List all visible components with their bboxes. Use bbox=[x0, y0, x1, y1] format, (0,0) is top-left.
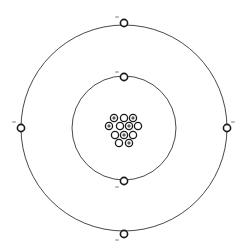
charge-signs bbox=[12, 17, 235, 240]
neutron bbox=[115, 139, 122, 146]
neutron bbox=[116, 122, 123, 129]
proton bbox=[125, 139, 132, 146]
electron-inner-shell-top bbox=[120, 73, 127, 80]
electrons bbox=[17, 19, 230, 237]
electron-shells bbox=[21, 25, 227, 231]
outer-shell bbox=[21, 25, 227, 231]
nucleus bbox=[105, 114, 141, 146]
neutron bbox=[111, 131, 118, 138]
proton bbox=[105, 122, 112, 129]
electron-inner-shell-bottom bbox=[120, 177, 127, 184]
electron-outer-shell-top bbox=[120, 19, 127, 26]
proton bbox=[120, 131, 127, 138]
electron-outer-shell-left bbox=[17, 124, 24, 131]
electron-outer-shell-bottom bbox=[120, 230, 127, 237]
electron-outer-shell-right bbox=[223, 124, 230, 131]
proton bbox=[129, 114, 136, 121]
atom-diagram bbox=[0, 0, 243, 250]
proton bbox=[110, 114, 117, 121]
neutron bbox=[120, 114, 127, 121]
proton bbox=[125, 122, 132, 129]
neutron bbox=[129, 131, 136, 138]
inner-shell bbox=[72, 76, 176, 180]
neutron bbox=[134, 122, 141, 129]
